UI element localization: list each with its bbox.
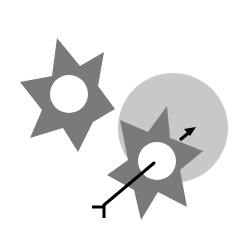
star-right-hole — [138, 142, 176, 180]
star-left-hole — [50, 75, 88, 113]
diagram-canvas — [0, 0, 245, 236]
